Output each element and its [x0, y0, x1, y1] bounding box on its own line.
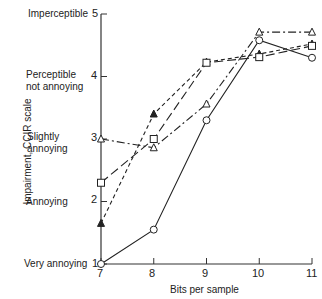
y-tick-4: 4	[91, 69, 97, 81]
data-point-marker	[309, 42, 316, 49]
series-line-3	[101, 32, 312, 148]
x-tick-10: 10	[252, 267, 264, 279]
y-tick-2: 2	[91, 193, 97, 205]
chart: Imperceptible Perceptible not annoying S…	[0, 0, 322, 299]
y-axis-label: Impairment, CCIR scale	[22, 97, 33, 207]
data-point-marker	[256, 54, 263, 61]
data-point-marker	[203, 100, 210, 107]
data-point-marker	[150, 110, 157, 117]
y-desc-5: Imperceptible	[28, 8, 88, 19]
y-tick-5: 5	[92, 7, 98, 19]
data-point-marker	[150, 136, 157, 143]
x-axis-label: Bits per sample	[170, 284, 239, 295]
series-line-0	[101, 40, 312, 264]
data-point-marker	[309, 54, 316, 61]
y-desc-1: Very annoying	[24, 258, 87, 269]
y-tick-3: 3	[91, 131, 97, 143]
x-tick-9: 9	[202, 267, 208, 279]
y-desc-4b: not annoying	[26, 81, 83, 92]
x-tick-11: 11	[306, 267, 317, 279]
data-point-marker	[256, 37, 263, 44]
series-line-1	[101, 44, 312, 223]
data-point-marker	[98, 179, 105, 186]
x-tick-8: 8	[149, 267, 155, 279]
data-point-marker	[203, 117, 210, 124]
x-tick-7: 7	[97, 267, 103, 279]
data-point-marker	[150, 226, 157, 233]
data-point-marker	[98, 219, 105, 226]
data-point-marker	[203, 59, 210, 66]
y-desc-4a: Perceptible	[26, 69, 76, 80]
y-desc-3b: annoying	[27, 143, 68, 154]
